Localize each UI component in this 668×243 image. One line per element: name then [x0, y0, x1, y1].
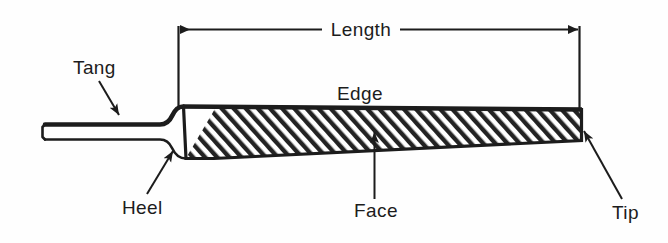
file-diagram-canvas: Length Tang Edge Heel Face Tip [0, 0, 668, 243]
tip-label: Tip [612, 202, 639, 223]
tang-top-line [45, 107, 183, 125]
edge-label: Edge [337, 83, 383, 104]
tang-leader-line [99, 81, 119, 115]
heel-label: Heel [122, 197, 163, 218]
tip-callout: Tip [584, 131, 639, 223]
tang-label: Tang [73, 57, 116, 78]
file-tool-outline [43, 107, 583, 159]
face-label: Face [354, 200, 398, 221]
length-label: Length [331, 19, 392, 40]
edge-callout: Edge [337, 83, 383, 104]
blade-top-edge [183, 107, 582, 110]
heel-leader-line [147, 151, 173, 194]
tang-bottom-line [45, 140, 186, 159]
heel-callout: Heel [122, 151, 173, 218]
tip-leader-line [584, 131, 622, 199]
file-parts-diagram: Length Tang Edge Heel Face Tip [0, 0, 668, 243]
tang-callout: Tang [73, 57, 119, 115]
